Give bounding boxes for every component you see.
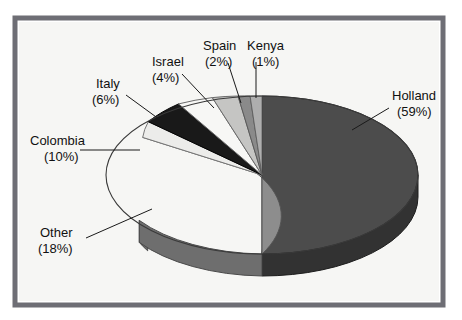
label-colombia-name: Colombia [30, 133, 86, 148]
label-italy: Italy (6%) [92, 76, 120, 107]
label-kenya-name: Kenya [247, 38, 285, 53]
chart-canvas: Holland (59%) Other (18%) Colombia (10%)… [0, 0, 462, 320]
label-colombia-pct: (10%) [44, 149, 79, 164]
label-holland-name: Holland [392, 88, 436, 103]
label-italy-pct: (6%) [92, 92, 119, 107]
label-other: Other (18%) [38, 225, 73, 256]
label-kenya: Kenya (1%) [247, 38, 285, 69]
label-israel-name: Israel [152, 54, 184, 69]
label-spain: Spain (2%) [203, 38, 236, 69]
label-israel: Israel (4%) [152, 54, 184, 85]
label-israel-pct: (4%) [152, 70, 179, 85]
label-holland-pct: (59%) [397, 104, 432, 119]
label-other-pct: (18%) [38, 241, 73, 256]
label-italy-name: Italy [96, 76, 120, 91]
label-other-name: Other [40, 225, 73, 240]
label-spain-name: Spain [203, 38, 236, 53]
label-kenya-pct: (1%) [252, 54, 279, 69]
label-spain-pct: (2%) [205, 54, 232, 69]
pie-chart-figure: Holland (59%) Other (18%) Colombia (10%)… [0, 0, 462, 320]
label-holland: Holland (59%) [392, 88, 436, 119]
